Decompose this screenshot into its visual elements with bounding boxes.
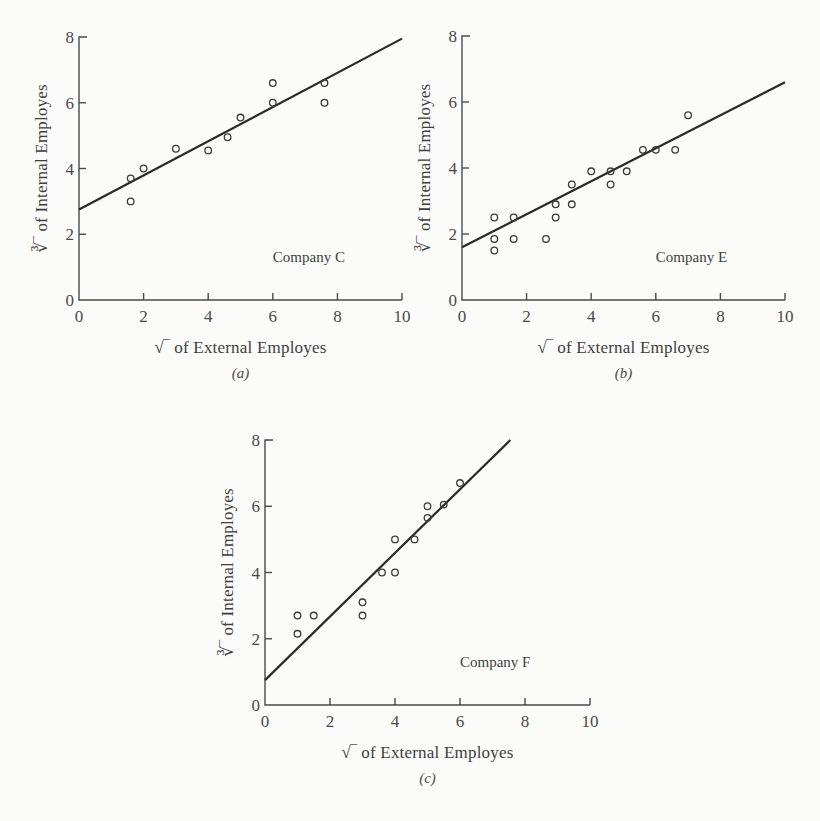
y-tick-label: 4 bbox=[449, 159, 458, 178]
data-point bbox=[270, 99, 277, 106]
data-point bbox=[294, 630, 301, 637]
data-point bbox=[569, 201, 576, 208]
regression-line bbox=[462, 82, 785, 247]
y-tick-label: 0 bbox=[252, 696, 261, 715]
y-tick-label: 4 bbox=[252, 564, 261, 583]
figure-caption: (b) bbox=[615, 365, 633, 382]
data-point bbox=[224, 134, 231, 141]
data-point bbox=[424, 503, 431, 510]
y-tick-label: 2 bbox=[66, 225, 75, 244]
x-tick-label: 2 bbox=[139, 307, 148, 326]
data-point bbox=[569, 181, 576, 188]
data-point bbox=[491, 247, 498, 254]
data-point bbox=[640, 147, 647, 154]
company-label: Company F bbox=[460, 654, 530, 670]
x-tick-label: 0 bbox=[261, 712, 270, 731]
data-point bbox=[623, 168, 630, 175]
y-tick-label: 0 bbox=[449, 291, 458, 310]
x-tick-label: 8 bbox=[333, 307, 342, 326]
data-point bbox=[392, 569, 399, 576]
data-point bbox=[205, 147, 212, 154]
x-tick-label: 6 bbox=[456, 712, 465, 731]
y-axis-title: ∛‾ of Internal Employes bbox=[414, 84, 434, 253]
y-axis-title: ∛‾ of Internal Employes bbox=[31, 84, 51, 253]
x-tick-label: 6 bbox=[652, 307, 661, 326]
x-tick-label: 10 bbox=[777, 307, 794, 326]
regression-line bbox=[79, 39, 402, 210]
y-axis-title: ∛‾ of Internal Employes bbox=[217, 488, 237, 657]
data-point bbox=[392, 536, 399, 543]
data-point bbox=[457, 480, 464, 487]
y-tick-label: 8 bbox=[66, 28, 75, 47]
x-tick-label: 0 bbox=[458, 307, 467, 326]
data-point bbox=[588, 168, 595, 175]
x-axis-title: √‾ of External Employes bbox=[537, 338, 709, 357]
data-point bbox=[491, 214, 498, 221]
y-tick-label: 2 bbox=[252, 630, 261, 649]
x-tick-label: 2 bbox=[522, 307, 531, 326]
data-point bbox=[491, 236, 498, 243]
company-label: Company E bbox=[656, 249, 727, 265]
chart-company-c: 024681002468Company C√‾ of External Empl… bbox=[31, 28, 411, 382]
data-point bbox=[127, 198, 134, 205]
data-point bbox=[359, 612, 366, 619]
data-point bbox=[237, 114, 244, 121]
figure-caption: (c) bbox=[419, 770, 436, 787]
data-point bbox=[411, 536, 418, 543]
x-tick-label: 0 bbox=[75, 307, 84, 326]
x-tick-label: 10 bbox=[582, 712, 599, 731]
data-point bbox=[379, 569, 386, 576]
y-tick-label: 6 bbox=[252, 497, 261, 516]
x-axis-title: √‾ of External Employes bbox=[154, 338, 326, 357]
y-tick-label: 8 bbox=[449, 27, 458, 46]
x-tick-label: 2 bbox=[326, 712, 335, 731]
chart-company-f: 024681002468Company F√‾ of External Empl… bbox=[217, 431, 599, 787]
axis-lines bbox=[265, 440, 590, 705]
regression-line bbox=[265, 440, 510, 680]
data-point bbox=[510, 236, 517, 243]
data-point bbox=[685, 112, 692, 119]
x-tick-label: 4 bbox=[391, 712, 400, 731]
x-tick-label: 8 bbox=[716, 307, 725, 326]
chart-company-e: 024681002468Company E√‾ of External Empl… bbox=[414, 27, 794, 382]
x-axis-title: √‾ of External Employes bbox=[341, 743, 513, 762]
x-tick-label: 8 bbox=[521, 712, 530, 731]
y-tick-label: 4 bbox=[66, 160, 75, 179]
company-label: Company C bbox=[273, 249, 345, 265]
x-tick-label: 4 bbox=[587, 307, 596, 326]
data-point bbox=[359, 599, 366, 606]
data-point bbox=[552, 201, 559, 208]
data-point bbox=[310, 612, 317, 619]
data-point bbox=[552, 214, 559, 221]
figure-caption: (a) bbox=[232, 365, 250, 382]
x-tick-label: 6 bbox=[269, 307, 278, 326]
data-point bbox=[672, 147, 679, 154]
data-point bbox=[607, 181, 614, 188]
data-point bbox=[543, 236, 550, 243]
x-tick-label: 4 bbox=[204, 307, 213, 326]
data-point bbox=[127, 175, 134, 182]
figure-canvas: 024681002468Company C√‾ of External Empl… bbox=[0, 0, 820, 821]
y-tick-label: 2 bbox=[449, 225, 458, 244]
data-point bbox=[140, 165, 147, 172]
data-point bbox=[294, 612, 301, 619]
data-point bbox=[173, 145, 180, 152]
y-tick-label: 8 bbox=[252, 431, 261, 450]
axis-lines bbox=[79, 37, 402, 300]
axis-lines bbox=[462, 36, 785, 300]
data-point bbox=[321, 99, 328, 106]
x-tick-label: 10 bbox=[394, 307, 411, 326]
data-point bbox=[270, 80, 277, 87]
y-tick-label: 6 bbox=[449, 93, 458, 112]
y-tick-label: 0 bbox=[66, 291, 75, 310]
y-tick-label: 6 bbox=[66, 94, 75, 113]
